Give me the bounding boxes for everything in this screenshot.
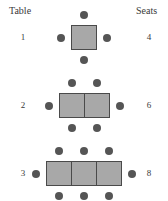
seat (45, 102, 53, 110)
table-number-label: 1 (17, 32, 29, 43)
table-unit (71, 25, 97, 50)
seat (93, 79, 101, 87)
seat (55, 147, 63, 155)
table-number-label: 2 (17, 100, 29, 111)
seat (105, 147, 113, 155)
seat (32, 170, 40, 178)
table-unit (84, 93, 110, 118)
seat (55, 192, 63, 200)
seat (68, 79, 76, 87)
table-unit (96, 161, 122, 186)
diagram-row: 3 8 (0, 150, 168, 200)
table-unit (46, 161, 72, 186)
seat (80, 56, 88, 64)
seat-count-label: 8 (143, 168, 155, 179)
table-number-label: 3 (17, 168, 29, 179)
seat (80, 147, 88, 155)
seat (80, 11, 88, 19)
table-unit (59, 93, 85, 118)
seat (93, 124, 101, 132)
diagram-row: 1 4 (0, 14, 168, 64)
seat (105, 192, 113, 200)
seat-count-label: 4 (143, 32, 155, 43)
seat (103, 34, 111, 42)
diagram-row: 2 6 (0, 82, 168, 132)
table-unit (71, 161, 97, 186)
table-group (46, 161, 122, 186)
table-group (59, 93, 110, 118)
seat (57, 34, 65, 42)
seat (128, 170, 136, 178)
seat (80, 192, 88, 200)
seat-count-label: 6 (143, 100, 155, 111)
seat (116, 102, 124, 110)
seat (68, 124, 76, 132)
table-seats-diagram: Table Seats 1 4 2 6 3 8 (0, 0, 168, 201)
table-group (71, 25, 97, 50)
